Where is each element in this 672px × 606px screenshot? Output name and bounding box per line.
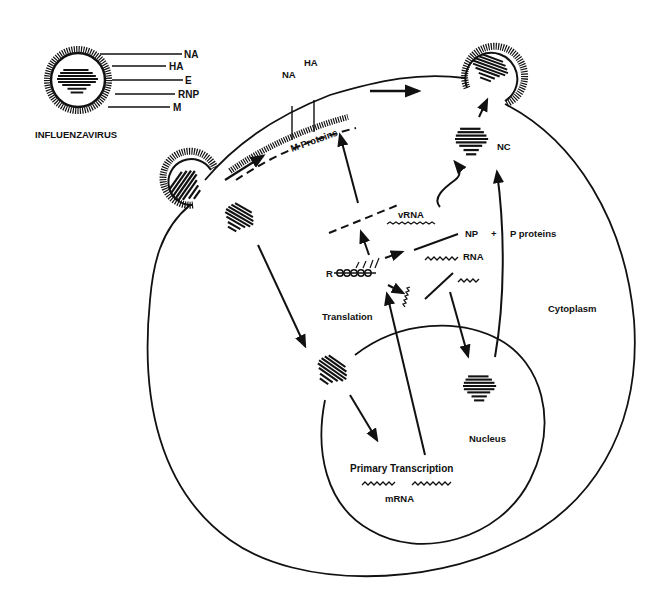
entering-virion: [163, 151, 215, 208]
arrow-mrna-to-translation: [387, 294, 425, 455]
arrow-to-vrna: [361, 232, 369, 255]
protein-segment: [425, 273, 453, 299]
arrow-to-m-proteins: [340, 135, 358, 203]
arrow-np-to-nucleus: [450, 292, 468, 356]
uncoated-rnp-icon: [219, 201, 258, 237]
primary-transcription-label: Primary Transcription: [350, 463, 453, 474]
vrna-label: vRNA: [398, 209, 424, 220]
ribosome-icon: [334, 258, 379, 276]
arrow-rnp-to-nucleus: [258, 245, 305, 346]
mrna-wave-2: [412, 482, 451, 485]
arrow-into-nucleus: [350, 395, 377, 440]
nuclear-entry-rnp-icon: [311, 352, 352, 391]
nucleus-membrane: [321, 326, 544, 544]
legend-label-ha: HA: [169, 61, 183, 72]
ribosome-label: R: [326, 268, 333, 279]
membrane-label-na: NA: [282, 69, 296, 80]
protein-wave-diagonal: [403, 287, 410, 307]
nc-icon: [455, 129, 488, 155]
mrna-label: mRNA: [385, 493, 414, 504]
legend-title: INFLUENZAVIRUS: [35, 129, 117, 140]
vrna-wave: [387, 222, 435, 224]
vrna-dashed: [329, 205, 398, 233]
membrane-spike-region: NA HA M Protoins: [230, 57, 356, 180]
nc-label: NC: [497, 141, 511, 152]
p-proteins-label: P proteins: [510, 228, 556, 239]
arrow-nc-to-bud: [479, 100, 487, 117]
rna-wave: [425, 257, 458, 260]
membrane-label-ha: HA: [304, 57, 318, 68]
nucleus-label: Nucleus: [469, 433, 506, 444]
arrow-nucleus-to-nc: [495, 172, 503, 357]
legend-label-rnp: RNP: [178, 89, 199, 100]
influenza-replication-diagram: NA HA E RNP M INFLUENZAVIRUS NA HA M Pro…: [0, 0, 672, 606]
nuclear-rnp-icon: [463, 376, 496, 400]
virion-rnp-icon: [57, 70, 98, 93]
mrna-wave-1: [362, 482, 395, 485]
legend-virion: NA HA E RNP M INFLUENZAVIRUS: [35, 49, 199, 140]
arrow-to-np: [385, 252, 402, 258]
virion-spikes: [47, 49, 109, 111]
translation-label: Translation: [322, 311, 373, 322]
rna-wave-small: [458, 279, 479, 282]
budding-virion: [465, 46, 525, 104]
rna-label: RNA: [463, 251, 484, 262]
legend-label-m: M: [173, 102, 181, 113]
np-label: NP: [465, 228, 479, 239]
vrna-to-nc-arrow: [437, 162, 459, 207]
legend-label-na: NA: [184, 49, 198, 60]
arrow-to-protein: [388, 285, 403, 293]
np-segment: [414, 234, 458, 250]
virion-envelope: [51, 53, 105, 107]
plus-label: +: [491, 228, 497, 239]
cytoplasm-label: Cytoplasm: [548, 303, 597, 314]
legend-label-e: E: [185, 75, 192, 86]
